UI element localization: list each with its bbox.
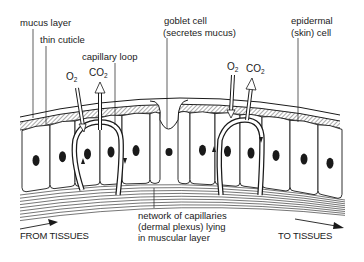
label-to-tissues: TO TISSUES — [278, 230, 332, 241]
goblet-nucleus — [166, 148, 173, 156]
cell-nucleus — [248, 147, 255, 158]
cell-nucleus — [133, 145, 140, 156]
cell-nucleus — [301, 154, 308, 165]
epidermal-cells — [22, 112, 342, 199]
co2-out-arrow-icon — [95, 82, 105, 93]
label-network-capillaries: network of capillaries — [138, 210, 227, 221]
label-from-tissues: FROM TISSUES — [20, 230, 89, 241]
label-dermal-plexus: (dermal plexus) lying — [138, 221, 226, 232]
label-o2-right: O2 — [227, 61, 239, 73]
to-tissues-arrow-icon — [295, 219, 344, 229]
cell-nucleus — [224, 146, 231, 157]
label-capillary-loop: capillary loop — [82, 51, 137, 62]
epidermal-cell — [178, 112, 190, 184]
co2-out-arrow-icon — [246, 78, 256, 90]
label-thin-cuticle: thin cuticle — [40, 34, 85, 45]
epidermal-cell — [150, 112, 160, 183]
cell-nucleus — [327, 158, 334, 169]
label-muscular-layer: in muscular layer — [138, 232, 210, 243]
label-epidermal: epidermal — [291, 15, 333, 26]
cell-nucleus — [108, 146, 115, 157]
label-co2-left: CO2 — [89, 67, 108, 79]
cell-nucleus — [84, 148, 91, 159]
label-goblet-cell: goblet cell — [164, 15, 207, 26]
label-co2-right: CO2 — [246, 63, 265, 75]
cell-nucleus — [33, 155, 40, 166]
cell-nucleus — [199, 145, 206, 156]
label-mucus-layer: mucus layer — [20, 17, 71, 28]
cell-nucleus — [59, 151, 66, 162]
from-tissues-arrow-icon — [20, 219, 58, 229]
label-o2-left: O2 — [66, 71, 78, 83]
label-goblet-cell-sub: (secretes mucus) — [163, 27, 236, 38]
skin-gas-exchange-diagram: mucus layer thin cuticle capillary loop … — [0, 0, 364, 262]
cell-nucleus — [273, 150, 280, 161]
label-skin-cell: (skin) cell — [291, 27, 331, 38]
